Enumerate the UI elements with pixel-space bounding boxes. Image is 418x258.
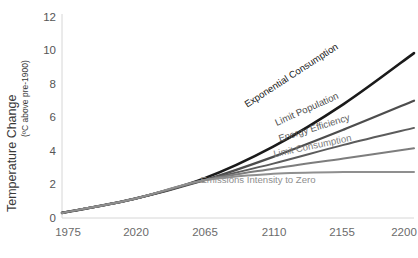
y-tick-label-4: 4 [50, 145, 57, 157]
x-tick-label-2020: 2020 [123, 226, 149, 238]
temperature-change-line-chart: Temperature Change (ºC above pre-1900) 0… [0, 0, 418, 258]
y-tick-label-6: 6 [50, 111, 56, 123]
plot-area [62, 14, 414, 218]
y-axis-title: Temperature Change [5, 95, 19, 212]
y-tick-label-10: 10 [43, 44, 56, 56]
x-tick-label-2065: 2065 [192, 226, 218, 238]
y-tick-label-8: 8 [50, 78, 56, 90]
x-tick-label-2200: 2200 [391, 226, 417, 238]
y-tick-label-0: 0 [50, 212, 56, 224]
x-tick-label-2110: 2110 [262, 226, 287, 238]
chart-container: Temperature Change (ºC above pre-1900) 0… [0, 0, 418, 258]
series-label-emissions-intensity-to-zero: Emissions Intensity to Zero [200, 174, 315, 185]
x-tick-label-2155: 2155 [329, 226, 355, 238]
y-tick-label-12: 12 [43, 11, 56, 23]
y-tick-label-2: 2 [50, 178, 56, 190]
x-tick-label-1975: 1975 [55, 226, 81, 238]
y-axis-title-units: (ºC above pre-1900) [20, 60, 30, 137]
